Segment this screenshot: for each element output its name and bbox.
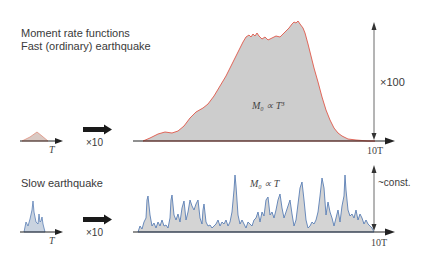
slow-small-moment-rate (20, 201, 63, 235)
fast-small-moment-rate (20, 132, 63, 144)
fast-scaling-law: M₀ ∝ T³ (252, 100, 284, 111)
fast-amplitude-label: ×100 (380, 76, 405, 88)
fast-large-axis-label: 10T (367, 145, 383, 156)
slow-scale-arrow (83, 215, 112, 225)
slow-small-axis-label: T (49, 235, 55, 246)
fast-small-axis-label: T (49, 144, 55, 155)
slow-amplitude-label: ~const. (378, 177, 411, 188)
title-slow-earthquake: Slow earthquake (21, 177, 103, 189)
title-fast-earthquake: Fast (ordinary) earthquake (21, 40, 151, 52)
slow-scaling-law: M₀ ∝ T (250, 178, 279, 189)
fast-scale-arrow (83, 125, 112, 135)
slow-large-moment-rate (133, 165, 395, 236)
slow-large-axis-label: 10T (371, 237, 387, 248)
fast-scale-label: ×10 (86, 137, 103, 148)
slow-scale-label: ×10 (86, 227, 103, 238)
title-moment-rate-functions: Moment rate functions (21, 27, 130, 39)
fast-large-moment-rate (133, 21, 395, 145)
